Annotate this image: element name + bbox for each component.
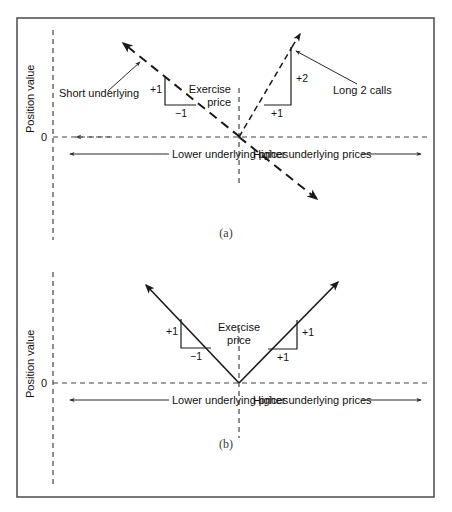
panel-a-short-underlying-label: Short underlying — [59, 87, 139, 99]
panel-a-right-slope-rise: +2 — [296, 72, 308, 84]
panel-b-higher-prices-label: Higher underlying prices — [253, 394, 372, 406]
panel-b-y-axis-label: Position value — [24, 330, 36, 399]
panel-b-left-arm — [146, 285, 239, 383]
panel-b-right-slope-run: +1 — [277, 351, 289, 363]
panel-a: Position value 0 Short underlying +1 −1 … — [24, 30, 428, 240]
panel-a-exercise-price-label-line1: Exercise — [189, 83, 231, 95]
panel-a-long-calls-arrow — [292, 34, 300, 47]
panel-a-left-slope-run: −1 — [175, 107, 187, 119]
panel-b-right-slope-rise: +1 — [302, 326, 314, 338]
panel-a-zero-tick: 0 — [41, 131, 47, 143]
panel-a-left-slope-rise: +1 — [150, 83, 162, 95]
panel-b-exercise-price-label-line1: Exercise — [218, 321, 260, 333]
panel-b-left-slope-rise: +1 — [166, 325, 178, 337]
panel-b-exercise-price-label-line2: price — [227, 334, 251, 346]
figure-canvas: Position value 0 Short underlying +1 −1 … — [0, 0, 452, 512]
panel-b: Position value 0 +1 −1 +1 +1 Exercise pr… — [24, 272, 428, 488]
panel-a-label: (a) — [219, 226, 232, 240]
panel-a-long-calls-right — [239, 47, 292, 137]
panel-a-y-axis-label: Position value — [24, 65, 36, 134]
figure-root: Position value 0 Short underlying +1 −1 … — [0, 0, 452, 512]
panel-a-short-underlying-lower — [239, 137, 317, 199]
panel-a-exercise-price-label-line2: price — [207, 96, 231, 108]
panel-a-higher-prices-label: Higher underlying prices — [253, 148, 372, 160]
panel-b-zero-tick: 0 — [41, 377, 47, 389]
panel-b-left-slope-run: −1 — [190, 350, 202, 362]
panel-b-right-slope-triangle — [268, 320, 297, 349]
panel-a-long-calls-label: Long 2 calls — [333, 84, 392, 96]
panel-b-label: (b) — [219, 437, 233, 451]
panel-a-right-slope-run: +1 — [271, 107, 283, 119]
panel-b-left-slope-triangle — [181, 319, 211, 348]
